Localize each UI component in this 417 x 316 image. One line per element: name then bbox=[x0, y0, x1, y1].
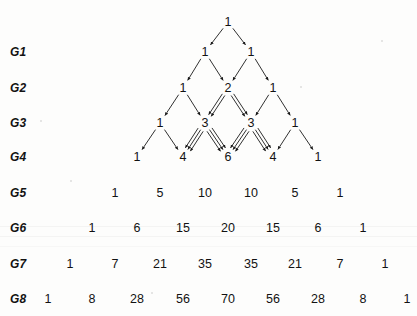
triangle-cell: 10 bbox=[198, 186, 212, 200]
triangle-cell: 1 bbox=[157, 116, 164, 130]
triangle-cell: 1 bbox=[360, 221, 367, 235]
inheritance-arrow bbox=[255, 59, 268, 80]
triangle-cell: 6 bbox=[315, 221, 322, 235]
triangle-cell: 35 bbox=[244, 257, 258, 271]
triangle-cell: 4 bbox=[180, 150, 187, 164]
triangle-cell: 1 bbox=[112, 186, 119, 200]
generation-label-g4: G4 bbox=[10, 150, 26, 164]
triangle-cell: 1 bbox=[248, 45, 255, 59]
inheritance-arrow bbox=[255, 130, 268, 150]
triangle-cell: 8 bbox=[360, 292, 367, 306]
triangle-cell: 20 bbox=[221, 221, 235, 235]
triangle-cell: 56 bbox=[176, 292, 190, 306]
triangle-cell: 15 bbox=[266, 221, 280, 235]
triangle-cell: 10 bbox=[244, 186, 258, 200]
inheritance-arrow bbox=[188, 59, 201, 80]
triangle-cell: 70 bbox=[221, 292, 235, 306]
inheritance-arrow bbox=[207, 131, 220, 151]
triangle-cell: 7 bbox=[337, 257, 344, 271]
triangle-cell: 15 bbox=[176, 221, 190, 235]
inheritance-arrow bbox=[258, 128, 271, 148]
inheritance-arrow bbox=[209, 59, 223, 81]
inheritance-arrow bbox=[277, 95, 290, 116]
triangle-cell: 1 bbox=[404, 292, 411, 306]
triangle-cell: 1 bbox=[180, 81, 187, 95]
inheritance-arrow bbox=[233, 28, 246, 45]
triangle-cell: 1 bbox=[315, 150, 322, 164]
triangle-cell: 1 bbox=[225, 15, 232, 29]
triangle-cell: 28 bbox=[311, 292, 325, 306]
triangle-cell: 6 bbox=[134, 221, 141, 235]
triangle-cell: 8 bbox=[89, 292, 96, 306]
inheritance-arrow bbox=[188, 130, 201, 150]
inheritance-arrow bbox=[231, 96, 245, 117]
triangle-cell: 1 bbox=[134, 150, 141, 164]
triangle-cell: 5 bbox=[292, 186, 299, 200]
triangle-cell: 2 bbox=[225, 81, 232, 95]
generation-label-g7: G7 bbox=[10, 257, 26, 271]
triangle-cell: 21 bbox=[153, 257, 167, 271]
triangle-cell: 56 bbox=[266, 292, 280, 306]
inheritance-arrow bbox=[278, 130, 291, 150]
pascal-triangle-figure: G1G2G3G4G5G6G7G8 11112113311464115101051… bbox=[0, 0, 417, 316]
inheritance-arrow bbox=[187, 95, 200, 116]
triangle-cell: 1 bbox=[89, 221, 96, 235]
inheritance-arrow bbox=[253, 131, 266, 151]
generation-label-g2: G2 bbox=[10, 81, 26, 95]
triangle-cell: 35 bbox=[198, 257, 212, 271]
inheritance-arrow bbox=[231, 128, 244, 148]
inheritance-arrow bbox=[212, 128, 225, 148]
triangle-cell: 1 bbox=[382, 257, 389, 271]
generation-label-g6: G6 bbox=[10, 221, 26, 235]
inheritance-arrow bbox=[142, 130, 155, 150]
inheritance-arrow bbox=[234, 94, 248, 115]
inheritance-arrow bbox=[299, 130, 312, 150]
triangle-cell: 3 bbox=[248, 116, 255, 130]
triangle-cell: 1 bbox=[337, 186, 344, 200]
inheritance-arrow bbox=[233, 59, 247, 81]
triangle-cell: 7 bbox=[112, 257, 119, 271]
triangle-cell: 5 bbox=[157, 186, 164, 200]
inheritance-arrow bbox=[164, 130, 177, 150]
generation-label-g5: G5 bbox=[10, 186, 26, 200]
triangle-cell: 4 bbox=[270, 150, 277, 164]
generation-label-g3: G3 bbox=[10, 116, 26, 130]
triangle-cell: 3 bbox=[202, 116, 209, 130]
triangle-cell: 1 bbox=[202, 45, 209, 59]
triangle-cell: 1 bbox=[292, 116, 299, 130]
inheritance-arrow bbox=[209, 130, 222, 150]
inheritance-arrow bbox=[236, 131, 249, 151]
triangle-cell: 21 bbox=[288, 257, 302, 271]
generation-label-g8: G8 bbox=[10, 292, 26, 306]
triangle-cell: 28 bbox=[130, 292, 144, 306]
triangle-cell: 1 bbox=[270, 81, 277, 95]
triangle-cell: 6 bbox=[225, 150, 232, 164]
inheritance-arrow bbox=[256, 95, 269, 116]
inheritance-arrow bbox=[209, 94, 223, 115]
inheritance-arrow bbox=[233, 130, 246, 150]
inheritance-arrow bbox=[190, 131, 203, 151]
generation-label-g1: G1 bbox=[10, 45, 26, 59]
inheritance-arrow bbox=[165, 95, 179, 116]
triangle-cell: 1 bbox=[67, 257, 74, 271]
triangle-cell: 1 bbox=[45, 292, 52, 306]
inheritance-arrow bbox=[210, 28, 223, 45]
inheritance-arrow bbox=[211, 96, 225, 117]
inheritance-arrow bbox=[185, 128, 198, 148]
